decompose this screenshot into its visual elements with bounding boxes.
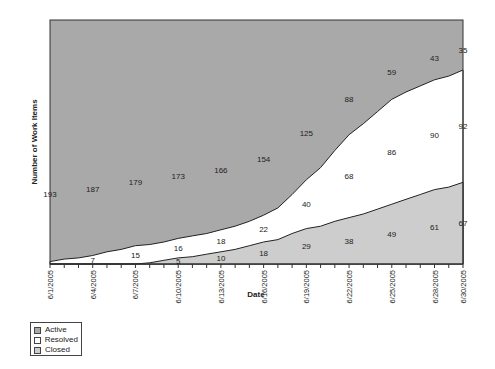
legend: Active Resolved Closed	[30, 322, 82, 356]
x-tick-label: 6/22/2005	[345, 270, 354, 303]
x-tick-label: 6/13/2005	[217, 270, 226, 303]
x-tick-label: 6/1/2005	[46, 270, 55, 299]
data-label-resolved: 16	[174, 244, 183, 253]
legend-swatch-closed	[34, 347, 41, 354]
data-label-active: 59	[387, 68, 396, 77]
data-label-active: 166	[214, 166, 228, 175]
data-label-resolved: 90	[430, 131, 439, 140]
data-label-resolved: 40	[302, 200, 311, 209]
legend-label: Closed	[45, 345, 70, 355]
x-tick-label: 6/7/2005	[131, 270, 140, 299]
x-axis-title: Date	[247, 290, 265, 299]
data-label-closed: 49	[387, 230, 396, 239]
x-tick-label: 6/4/2005	[89, 270, 98, 299]
data-label-active: 187	[86, 185, 100, 194]
data-label-active: 179	[129, 178, 143, 187]
data-label-active: 173	[171, 172, 185, 181]
data-label-resolved: 92	[459, 122, 468, 131]
data-label-closed: 10	[216, 254, 225, 263]
data-label-closed: 18	[259, 249, 268, 258]
data-label-active: 125	[300, 129, 314, 138]
data-label-active: 88	[345, 95, 354, 104]
data-label-resolved: 22	[259, 225, 268, 234]
x-tick-label: 6/19/2005	[302, 270, 311, 303]
data-label-resolved: 18	[216, 237, 225, 246]
y-axis-title: Number of Work Items	[30, 99, 39, 185]
x-tick-label: 6/30/2005	[459, 270, 468, 303]
legend-label: Resolved	[45, 335, 78, 345]
data-label-active: 154	[257, 155, 271, 164]
plot-area	[50, 20, 463, 264]
data-label-resolved: 68	[345, 172, 354, 181]
data-label-active: 193	[43, 190, 57, 199]
data-label-active: 43	[430, 54, 439, 63]
x-tick-label: 6/10/2005	[174, 270, 183, 303]
legend-item-resolved: Resolved	[34, 335, 78, 345]
legend-label: Active	[45, 325, 67, 335]
data-label-closed: 61	[430, 223, 439, 232]
data-label-closed: 29	[302, 242, 311, 251]
data-label-resolved: 15	[131, 251, 140, 260]
data-label-closed: 5	[176, 257, 181, 266]
legend-swatch-resolved	[34, 337, 41, 344]
legend-item-active: Active	[34, 325, 78, 335]
data-label-closed: 67	[459, 219, 468, 228]
x-tick-label: 6/28/2005	[431, 270, 440, 303]
stacked-area-chart: 6/1/20056/4/20056/7/20056/10/20056/13/20…	[0, 0, 495, 369]
data-label-resolved: 7	[90, 256, 95, 265]
data-label-resolved: 86	[387, 148, 396, 157]
legend-item-closed: Closed	[34, 345, 78, 355]
data-label-active: 35	[459, 46, 468, 55]
data-label-closed: 38	[345, 237, 354, 246]
legend-swatch-active	[34, 327, 41, 334]
x-tick-label: 6/25/2005	[388, 270, 397, 303]
